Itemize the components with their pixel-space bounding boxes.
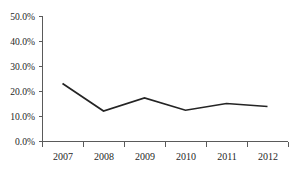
x-tick-labels: 2007 2008 2009 2010 2011 2012 xyxy=(53,151,278,162)
y-tick-label: 10.0% xyxy=(10,111,35,122)
x-tick-label-2007: 2007 xyxy=(53,151,73,162)
series-line-0 xyxy=(63,84,268,112)
y-tick-label: 40.0% xyxy=(10,36,35,47)
chart-plot-area: 50.0% 40.0% 30.0% 20.0% 10.0% 0.0% 2007 … xyxy=(0,0,296,172)
x-tick-label-2009: 2009 xyxy=(135,151,155,162)
y-tick-marks xyxy=(39,17,43,142)
x-tick-label-2012: 2012 xyxy=(258,151,278,162)
x-tick-label-2008: 2008 xyxy=(94,151,114,162)
y-tick-label: 50.0% xyxy=(10,11,35,22)
y-tick-label: 0.0% xyxy=(15,136,35,147)
line-chart-figure: 50.0% 40.0% 30.0% 20.0% 10.0% 0.0% 2007 … xyxy=(0,0,296,172)
y-tick-label: 30.0% xyxy=(10,61,35,72)
axis-group xyxy=(42,16,288,142)
y-tick-labels: 50.0% 40.0% 30.0% 20.0% 10.0% 0.0% xyxy=(10,11,35,147)
y-tick-label: 20.0% xyxy=(10,86,35,97)
x-tick-label-2011: 2011 xyxy=(217,151,237,162)
x-tick-marks xyxy=(43,142,289,147)
x-tick-label-2010: 2010 xyxy=(176,151,196,162)
